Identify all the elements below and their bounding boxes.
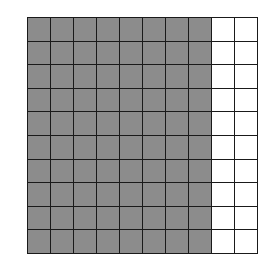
shaded-cell [97,42,120,66]
shaded-cell [74,207,97,231]
shaded-cell [166,136,189,160]
shaded-cell [51,136,74,160]
shaded-cell [28,230,51,254]
shaded-cell [28,207,51,231]
empty-cell [212,42,235,66]
shaded-cell [166,183,189,207]
empty-cell [235,18,258,42]
shaded-cell [189,183,212,207]
shaded-cell [143,183,166,207]
shaded-cell [166,18,189,42]
shaded-cell [97,136,120,160]
shaded-cell [97,183,120,207]
shaded-cell [189,136,212,160]
shaded-cell [120,136,143,160]
empty-cell [235,89,258,113]
shaded-cell [189,89,212,113]
shaded-cell [166,65,189,89]
shaded-cell [74,183,97,207]
shaded-cell [120,112,143,136]
shaded-cell [166,160,189,184]
empty-cell [235,65,258,89]
shaded-cell [166,42,189,66]
shaded-cell [143,207,166,231]
shaded-cell [28,112,51,136]
shaded-cell [166,112,189,136]
shaded-cell [51,42,74,66]
shaded-cell [120,230,143,254]
shaded-cell [51,18,74,42]
shaded-cell [166,89,189,113]
shaded-cell [97,65,120,89]
shaded-cell [74,112,97,136]
shaded-cell [143,112,166,136]
empty-cell [235,160,258,184]
shaded-cell [143,136,166,160]
shaded-cell [120,65,143,89]
empty-cell [212,89,235,113]
shaded-cell [97,89,120,113]
empty-cell [212,18,235,42]
empty-cell [235,42,258,66]
shaded-cell [51,207,74,231]
shaded-cell [189,18,212,42]
shaded-cell [120,18,143,42]
shaded-cell [189,230,212,254]
shaded-cell [189,112,212,136]
empty-cell [212,183,235,207]
shaded-cell [120,183,143,207]
shaded-cell [189,207,212,231]
shaded-cell [120,160,143,184]
empty-cell [212,230,235,254]
shaded-cell [189,65,212,89]
shaded-cell [28,18,51,42]
shaded-cell [74,89,97,113]
shaded-cell [51,112,74,136]
shaded-cell [143,89,166,113]
shaded-cell [120,207,143,231]
empty-cell [235,136,258,160]
empty-cell [212,65,235,89]
shaded-cell [74,18,97,42]
shaded-cell [97,230,120,254]
shaded-cell [143,160,166,184]
shaded-cell [28,136,51,160]
shaded-cell [74,230,97,254]
empty-cell [212,160,235,184]
shaded-cell [74,42,97,66]
shaded-cell [97,160,120,184]
shaded-cell [166,230,189,254]
shaded-cell [51,230,74,254]
empty-cell [235,183,258,207]
shaded-cell [28,89,51,113]
shaded-cell [51,89,74,113]
shaded-cell [143,42,166,66]
shaded-cell [143,65,166,89]
empty-cell [235,112,258,136]
shaded-cell [189,160,212,184]
shaded-cell [28,65,51,89]
shaded-cell [97,18,120,42]
shaded-cell [51,65,74,89]
shaded-cell [51,160,74,184]
shaded-cell [97,207,120,231]
empty-cell [212,136,235,160]
shaded-cell [166,207,189,231]
shaded-cell [74,136,97,160]
shaded-cell [74,65,97,89]
shaded-cell [28,42,51,66]
shaded-cell [143,18,166,42]
shaded-cell [97,112,120,136]
empty-cell [212,207,235,231]
shaded-cell [28,160,51,184]
shaded-cell [74,160,97,184]
shaded-cell [143,230,166,254]
empty-cell [235,230,258,254]
shaded-cell [189,42,212,66]
empty-cell [212,112,235,136]
empty-cell [235,207,258,231]
hundred-grid [27,17,258,254]
shaded-cell [120,89,143,113]
shaded-cell [28,183,51,207]
shaded-cell [120,42,143,66]
